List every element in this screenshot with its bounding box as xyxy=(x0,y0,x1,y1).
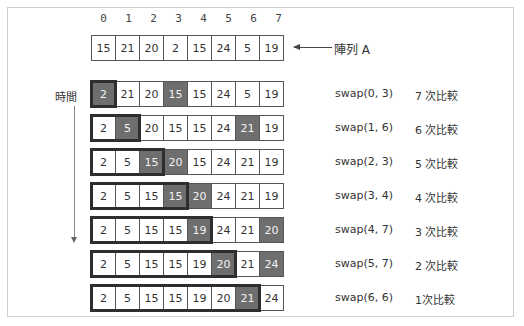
swap-operation-label: swap(4, 7) xyxy=(335,223,393,236)
array-cell: 2 xyxy=(91,217,116,243)
array-cell: 19 xyxy=(259,115,284,141)
array-cell: 21 xyxy=(115,35,140,61)
array-cell: 5 xyxy=(235,81,260,107)
step-row: 25151519242120 xyxy=(91,217,284,243)
highlighted-cell: 20 xyxy=(163,149,188,175)
array-cell: 21 xyxy=(115,81,140,107)
array-cell: 20 xyxy=(139,81,164,107)
array-cell: 15 xyxy=(163,115,188,141)
array-cell: 20 xyxy=(139,35,164,61)
index-label: 1 xyxy=(116,12,141,25)
comparison-count-label: 1次比較 xyxy=(415,291,455,307)
array-cell: 20 xyxy=(211,285,236,311)
highlighted-cell: 15 xyxy=(139,149,164,175)
array-cell: 19 xyxy=(259,149,284,175)
index-label: 4 xyxy=(191,12,216,25)
array-a-label: 陣列 A xyxy=(334,40,370,57)
step-row: 22120151524519 xyxy=(91,81,284,107)
array-cell: 15 xyxy=(139,285,164,311)
array-cell: 5 xyxy=(115,149,140,175)
array-cell: 5 xyxy=(115,285,140,311)
index-header: 0 1 2 3 4 5 6 7 xyxy=(91,12,291,25)
array-cell: 19 xyxy=(187,251,212,277)
highlighted-cell: 15 xyxy=(163,81,188,107)
highlighted-cell: 21 xyxy=(235,115,260,141)
array-cell: 15 xyxy=(163,251,188,277)
step-row: 25151519202124 xyxy=(91,285,284,311)
index-label: 2 xyxy=(141,12,166,25)
array-cell: 19 xyxy=(187,285,212,311)
index-label: 7 xyxy=(266,12,291,25)
array-cell: 24 xyxy=(211,183,236,209)
array-cell: 21 xyxy=(235,251,260,277)
array-cell: 19 xyxy=(259,183,284,209)
comparison-count-label: 7 次比較 xyxy=(415,87,459,103)
array-cell: 15 xyxy=(163,217,188,243)
array-cell: 24 xyxy=(211,35,236,61)
array-cell: 5 xyxy=(115,183,140,209)
swap-operation-label: swap(2, 3) xyxy=(335,155,393,168)
array-cell: 24 xyxy=(259,285,284,311)
array-cell: 15 xyxy=(163,285,188,311)
array-cell: 15 xyxy=(91,35,116,61)
array-cell: 2 xyxy=(163,35,188,61)
index-label: 3 xyxy=(166,12,191,25)
array-cell: 15 xyxy=(187,35,212,61)
array-cell: 2 xyxy=(91,183,116,209)
array-cell: 2 xyxy=(91,115,116,141)
index-label: 0 xyxy=(91,12,116,25)
array-cell: 5 xyxy=(115,217,140,243)
highlighted-cell: 24 xyxy=(259,251,284,277)
array-cell: 2 xyxy=(91,285,116,311)
highlighted-cell: 20 xyxy=(259,217,284,243)
swap-operation-label: swap(6, 6) xyxy=(335,291,393,304)
step-row: 25201515242119 xyxy=(91,115,284,141)
comparison-count-label: 4 次比較 xyxy=(415,189,459,205)
array-cell: 21 xyxy=(235,217,260,243)
array-cell: 19 xyxy=(259,35,284,61)
highlighted-cell: 5 xyxy=(115,115,140,141)
array-cell: 24 xyxy=(211,217,236,243)
array-cell: 20 xyxy=(139,115,164,141)
array-cell: 15 xyxy=(139,251,164,277)
swap-operation-label: swap(1, 6) xyxy=(335,121,393,134)
swap-operation-label: swap(5, 7) xyxy=(335,257,393,270)
highlighted-cell: 2 xyxy=(91,81,116,107)
comparison-count-label: 6 次比較 xyxy=(415,121,459,137)
array-cell: 24 xyxy=(211,149,236,175)
highlighted-cell: 21 xyxy=(235,285,260,311)
comparison-count-label: 5 次比較 xyxy=(415,155,459,171)
array-cell: 15 xyxy=(139,183,164,209)
array-cell: 15 xyxy=(187,149,212,175)
left-arrow-icon xyxy=(294,47,332,48)
swap-operation-label: swap(0, 3) xyxy=(335,87,393,100)
comparison-count-label: 2 次比較 xyxy=(415,257,459,273)
highlighted-cell: 19 xyxy=(187,217,212,243)
array-cell: 15 xyxy=(187,81,212,107)
initial-array: 15 21 20 2 15 24 5 19 xyxy=(91,35,284,61)
comparison-count-label: 3 次比較 xyxy=(415,223,459,239)
array-cell: 5 xyxy=(115,251,140,277)
highlighted-cell: 20 xyxy=(211,251,236,277)
step-row: 25151519202124 xyxy=(91,251,284,277)
array-cell: 15 xyxy=(187,115,212,141)
array-cell: 24 xyxy=(211,81,236,107)
array-cell: 2 xyxy=(91,251,116,277)
step-row: 25151520242119 xyxy=(91,183,284,209)
array-cell: 24 xyxy=(211,115,236,141)
array-cell: 19 xyxy=(259,81,284,107)
time-down-arrow-icon xyxy=(74,106,75,238)
array-cell: 21 xyxy=(235,149,260,175)
step-row: 25152015242119 xyxy=(91,149,284,175)
index-label: 5 xyxy=(216,12,241,25)
highlighted-cell: 15 xyxy=(163,183,188,209)
array-cell: 5 xyxy=(235,35,260,61)
array-cell: 21 xyxy=(235,183,260,209)
array-cell: 2 xyxy=(91,149,116,175)
array-cell: 15 xyxy=(139,217,164,243)
swap-operation-label: swap(3, 4) xyxy=(335,189,393,202)
highlighted-cell: 20 xyxy=(187,183,212,209)
index-label: 6 xyxy=(241,12,266,25)
time-label: 時間 xyxy=(55,88,77,104)
